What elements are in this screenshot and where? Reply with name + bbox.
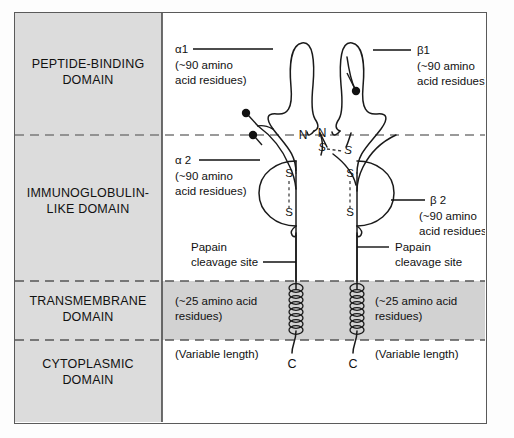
domain-label-immunoglobulin-like-line1: IMMUNOGLOBULIN-	[27, 186, 149, 200]
glycosylation-dot-beta1	[352, 87, 360, 95]
label-alpha2-size-line1: (~90 amino	[175, 170, 233, 182]
figure-canvas: PEPTIDE-BINDING DOMAIN IMMUNOGLOBULIN- L…	[0, 0, 514, 438]
label-alpha2-name: α 2	[175, 154, 191, 166]
label-alpha1-size-line1: (~90 amino	[175, 59, 233, 71]
label-alpha1-size-line2: acid residues)	[175, 74, 247, 86]
label-tm-left-line1: (~25 amino acid	[175, 295, 257, 307]
mhc-class-ii-diagram: PEPTIDE-BINDING DOMAIN IMMUNOGLOBULIN- L…	[15, 13, 485, 422]
label-alpha2-size-line2: acid residues)	[175, 185, 247, 197]
label-tm-left-line2: residues)	[175, 310, 222, 322]
beta-skirt	[357, 135, 396, 191]
alpha-n-tail	[307, 131, 314, 135]
label-variable-right: (Variable length)	[375, 348, 459, 360]
n-terminus-label-alpha: N	[299, 128, 308, 142]
label-beta2-size-line2: acid residues)	[419, 225, 485, 237]
beta1-inner-strand	[347, 57, 355, 89]
domain-label-transmembrane-line1: TRANSMEMBRANE	[29, 294, 146, 308]
domain-label-peptide-binding-line2: DOMAIN	[62, 73, 113, 87]
label-papain-left-line1: Papain	[191, 241, 227, 253]
figure-frame: PEPTIDE-BINDING DOMAIN IMMUNOGLOBULIN- L…	[14, 12, 487, 424]
beta2-ig-loop	[357, 161, 394, 226]
domain-label-cytoplasmic-line2: DOMAIN	[62, 373, 113, 387]
c-terminus-label-beta: C	[348, 357, 357, 371]
domain-label-immunoglobulin-like-line2: LIKE DOMAIN	[47, 202, 130, 216]
domain-label-transmembrane-line2: DOMAIN	[62, 310, 113, 324]
glycosylation-dot-alpha1	[242, 109, 250, 117]
disulfide-bridge-interchain	[327, 149, 342, 151]
label-beta1-size-line1: (~90 amino	[417, 60, 475, 72]
label-papain-right-line2: cleavage site	[395, 256, 462, 268]
label-beta1-size-line2: acid residues)	[417, 75, 485, 87]
label-alpha1-name: α1	[175, 43, 188, 55]
interchain-disulfide: S S	[318, 141, 352, 156]
label-papain-right-line1: Papain	[395, 241, 431, 253]
c-terminus-label-alpha: C	[287, 357, 296, 371]
label-beta1-name: β1	[417, 44, 430, 56]
disulfide-s-right: S	[344, 144, 352, 156]
label-tm-right-line2: residues)	[375, 310, 422, 322]
disulfide-s-left: S	[318, 141, 326, 153]
alpha2-disulfide-s-top: S	[285, 167, 293, 179]
label-beta2-name: β 2	[430, 194, 446, 206]
label-papain-left-line2: cleavage site	[191, 256, 258, 268]
label-tm-right-line1: (~25 amino acid	[375, 295, 457, 307]
alpha1-lobe	[268, 43, 318, 173]
beta2-disulfide-s-top: S	[346, 167, 354, 179]
glycosylation-dot-alpha2	[249, 131, 257, 139]
label-variable-left: (Variable length)	[175, 348, 259, 360]
domain-label-cytoplasmic-line1: CYTOPLASMIC	[42, 357, 134, 371]
domain-label-peptide-binding-line1: PEPTIDE-BINDING	[32, 57, 145, 71]
label-beta2-size-line1: (~90 amino	[419, 210, 477, 222]
n-terminus-label-beta: N	[318, 126, 327, 140]
